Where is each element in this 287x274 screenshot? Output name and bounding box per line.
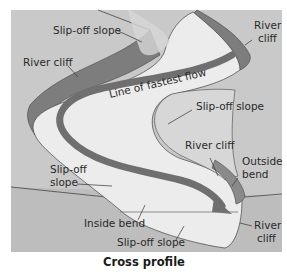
label-outside-bend-2: bend	[242, 168, 268, 180]
label-slip-off-slope-top: Slip-off slope	[53, 24, 121, 36]
label-river-cliff-top-right-1: River	[254, 19, 282, 31]
label-river-cliff-top-right-2: cliff	[258, 32, 278, 44]
label-river-cliff-left: River cliff	[23, 56, 73, 68]
label-river-cliff-mid: River cliff	[185, 139, 235, 151]
label-inside-bend: Inside bend	[84, 217, 145, 229]
label-outside-bend-1: Outside	[242, 155, 283, 167]
label-slip-off-slope-bottom: Slip-off slope	[117, 236, 185, 248]
diagram-caption: Cross profile	[103, 255, 185, 269]
label-river-cliff-bottom-1: River	[254, 219, 282, 231]
label-river-cliff-bottom-2: cliff	[257, 232, 277, 244]
label-slip-off-left-1: Slip-off	[50, 163, 88, 175]
meander-cross-profile-diagram: Line of fastest flow Slip-off slope Rive…	[0, 0, 287, 274]
label-slip-off-slope-right: Slip-off slope	[196, 100, 264, 112]
label-slip-off-left-2: slope	[50, 176, 78, 188]
